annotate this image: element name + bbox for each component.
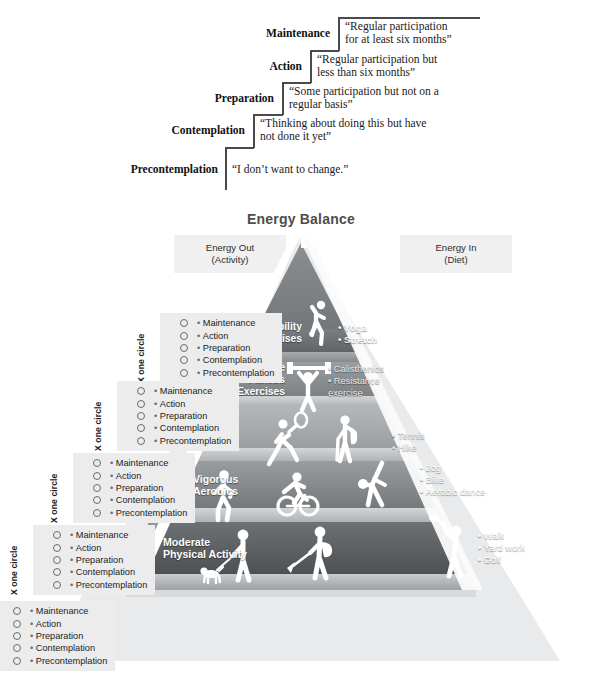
stage-option-row[interactable]: Maintenance — [53, 529, 147, 541]
stage-option-row[interactable]: Maintenance — [180, 317, 274, 329]
stage-option-label: Precontemplation — [110, 508, 187, 518]
stage-option-row[interactable]: Action — [180, 329, 274, 341]
stage-option-row[interactable]: Action — [93, 469, 187, 481]
radio-circle-icon[interactable] — [93, 472, 101, 480]
stage-option-label: Maintenance — [110, 458, 168, 468]
stage-option-row[interactable]: Action — [137, 397, 231, 409]
stage-option-row[interactable]: Preparation — [93, 482, 187, 494]
radio-circle-icon[interactable] — [53, 581, 61, 589]
radio-circle-icon[interactable] — [180, 332, 188, 340]
stage-checklist-vertical-label: X one circle — [136, 334, 146, 383]
radio-circle-icon[interactable] — [137, 412, 145, 420]
tier-title-moderate-physical-activity: Moderate Physical Activity — [163, 536, 295, 560]
radio-circle-icon[interactable] — [93, 496, 101, 504]
stage-checklist-moderate-activity[interactable]: X one circle Maintenance Action Preparat… — [0, 601, 115, 671]
stage-option-label: Action — [30, 619, 61, 629]
stage-option-row[interactable]: Precontemplation — [13, 655, 107, 667]
radio-circle-icon[interactable] — [93, 459, 101, 467]
stage-option-row[interactable]: Action — [13, 617, 107, 629]
stage-option-label: Preparation — [154, 411, 207, 421]
stage-option-row[interactable]: Precontemplation — [93, 507, 187, 519]
stage-option-label: Preparation — [70, 555, 123, 565]
stair-stroke — [310, 50, 312, 83]
tier-item: Stretch — [338, 334, 377, 346]
stage-checklist-vigorous-sports[interactable]: X one circle Maintenance Action Preparat… — [73, 453, 195, 523]
stair-stroke — [254, 114, 283, 116]
stage-option-row[interactable]: Precontemplation — [137, 435, 231, 447]
stage-option-row[interactable]: Contemplation — [93, 494, 187, 506]
stage-option-row[interactable]: Maintenance — [137, 385, 231, 397]
stage-option-row[interactable]: Preparation — [137, 410, 231, 422]
tier-item: Hike — [392, 443, 425, 455]
stage-option-row[interactable]: Contemplation — [137, 422, 231, 434]
stage-option-row[interactable]: Maintenance — [13, 605, 107, 617]
tier-item: Resistance exercise — [328, 376, 384, 400]
stage-option-label: Contemplation — [110, 495, 175, 505]
stage-option-row[interactable]: Precontemplation — [180, 367, 274, 379]
radio-circle-icon[interactable] — [180, 356, 188, 364]
stage-option-row[interactable]: Preparation — [53, 554, 147, 566]
stage-option-row[interactable]: Contemplation — [13, 642, 107, 654]
stair-stroke — [225, 147, 227, 190]
figure-page: Maintenance “Regular participation for a… — [0, 0, 602, 676]
stage-option-label: Action — [70, 543, 101, 553]
radio-circle-icon[interactable] — [93, 484, 101, 492]
stage-option-label: Action — [197, 331, 228, 341]
stage-checklist-muscle-fitness[interactable]: X one circle Maintenance Action Preparat… — [117, 381, 239, 451]
stage-option-row[interactable]: Contemplation — [53, 566, 147, 578]
radio-circle-icon[interactable] — [13, 607, 21, 615]
stair-stroke — [253, 114, 255, 148]
stage-quote-preparation: “Some participation but not on a regular… — [289, 85, 499, 112]
stage-checklist-flexibility[interactable]: X one circle Maintenance Action Preparat… — [160, 313, 282, 383]
stage-option-row[interactable]: Preparation — [13, 630, 107, 642]
radio-circle-icon[interactable] — [93, 509, 101, 517]
stage-option-label: Contemplation — [197, 355, 262, 365]
radio-circle-icon[interactable] — [137, 400, 145, 408]
stair-stroke — [338, 17, 340, 51]
stage-checklist-vertical-label: X one circle — [9, 546, 19, 595]
radio-circle-icon[interactable] — [180, 369, 188, 377]
radio-circle-icon[interactable] — [180, 319, 188, 327]
stage-option-row[interactable]: Maintenance — [93, 457, 187, 469]
stage-option-label: Contemplation — [70, 567, 135, 577]
radio-circle-icon[interactable] — [13, 620, 21, 628]
tier-items-muscle-fitness-exercises: Calisthenics Resistance exercise — [328, 364, 384, 400]
tier-title-vigorous-aerobics: Vigorous Aerobics — [193, 473, 293, 497]
stage-label-maintenance: Maintenance — [180, 27, 330, 40]
tier-items-vigorous-sports-and-recreation: Tennis Hike — [392, 431, 425, 455]
stage-checklist-vertical-label: X one circle — [49, 474, 59, 523]
stair-stroke — [226, 147, 254, 149]
tier-item: Bike — [420, 475, 485, 487]
stages-of-change-staircase: Maintenance “Regular participation for a… — [0, 0, 602, 205]
radio-circle-icon[interactable] — [137, 424, 145, 432]
stage-option-row[interactable]: Preparation — [180, 342, 274, 354]
radio-circle-icon[interactable] — [137, 387, 145, 395]
radio-circle-icon[interactable] — [180, 344, 188, 352]
energy-balance-pyramid: Energy Balance Energy Out (Activity) Ene… — [0, 205, 602, 676]
radio-circle-icon[interactable] — [13, 632, 21, 640]
tier-items-moderate-physical-activity: Walk Yard work Golf — [478, 531, 525, 567]
stair-stroke — [283, 82, 311, 84]
stage-option-row[interactable]: Action — [53, 541, 147, 553]
radio-circle-icon[interactable] — [13, 644, 21, 652]
stage-option-label: Action — [110, 471, 141, 481]
stage-option-label: Contemplation — [30, 643, 95, 653]
radio-circle-icon[interactable] — [53, 531, 61, 539]
tier-item: Aerobic dance — [420, 487, 485, 499]
stage-option-label: Maintenance — [30, 606, 88, 616]
stage-checklist-vertical-label: X one circle — [93, 402, 103, 451]
tier-item: Jog — [420, 463, 485, 475]
tier-items-vigorous-aerobics: Jog Bike Aerobic dance — [420, 463, 485, 499]
radio-circle-icon[interactable] — [13, 657, 21, 665]
radio-circle-icon[interactable] — [53, 544, 61, 552]
stage-option-row[interactable]: Precontemplation — [53, 579, 147, 591]
radio-circle-icon[interactable] — [137, 437, 145, 445]
stair-stroke — [339, 17, 480, 19]
stage-checklist-vigorous-aerobics[interactable]: X one circle Maintenance Action Preparat… — [33, 525, 155, 595]
stage-option-row[interactable]: Contemplation — [180, 354, 274, 366]
radio-circle-icon[interactable] — [53, 556, 61, 564]
stage-quote-contemplation: “Thinking about doing this but have not … — [260, 117, 490, 144]
stage-option-label: Precontemplation — [30, 656, 107, 666]
radio-circle-icon[interactable] — [53, 568, 61, 576]
stair-stroke — [311, 50, 339, 52]
